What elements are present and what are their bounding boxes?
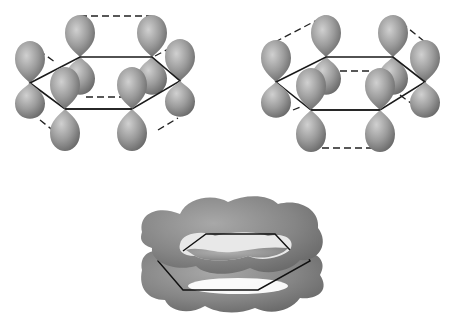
benzene-orbital-diagram [0,0,459,330]
p-orbital-lobes-back [261,15,440,95]
p-orbital-lobes-back [15,15,195,95]
kekule-panel-1 [15,15,195,151]
kekule-panel-2 [261,15,440,152]
delocalized-pi-cloud-panel [141,196,324,312]
diagram-canvas [0,0,459,330]
